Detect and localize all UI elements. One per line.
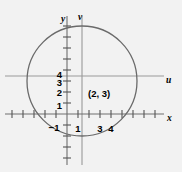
y-axis-label: y	[61, 14, 65, 24]
u-axis-label: u	[166, 75, 171, 85]
y-tick-label-1: 1	[57, 100, 62, 111]
x-axis-label: x	[167, 113, 172, 123]
x-tick-label-minus-1: −1	[49, 122, 60, 133]
x-tick-label-1: 1	[75, 123, 80, 134]
coordinate-plane-figure: y v u x (2, 3) 4 3 2 1 −1 1 3 4	[0, 0, 182, 172]
x-tick-label-4: 4	[108, 123, 113, 134]
point-label-2-3: (2, 3)	[88, 88, 110, 99]
v-axis-label: v	[78, 12, 82, 22]
x-tick-label-3: 3	[97, 123, 102, 134]
